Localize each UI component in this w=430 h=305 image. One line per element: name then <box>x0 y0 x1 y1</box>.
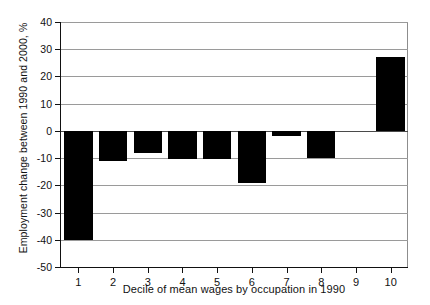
y-axis-title: Employment change between 1990 and 2000,… <box>17 13 29 263</box>
x-tick <box>321 267 322 273</box>
bar-group <box>373 22 408 267</box>
bar-group <box>165 22 200 267</box>
y-tick-label: -50 <box>37 261 52 273</box>
x-tick <box>391 267 392 273</box>
y-tick-label: 40 <box>40 16 52 28</box>
bar <box>64 131 92 240</box>
x-tick <box>287 267 288 273</box>
bar-group <box>61 22 96 267</box>
bar-group <box>200 22 235 267</box>
y-tick-label: -10 <box>37 152 52 164</box>
y-tick-label: 10 <box>40 98 52 110</box>
bar <box>168 131 196 160</box>
x-tick <box>148 267 149 273</box>
bar-group <box>339 22 374 267</box>
x-tick <box>113 267 114 273</box>
y-tick-label: 20 <box>40 70 52 82</box>
bar <box>307 131 335 158</box>
x-tick <box>217 267 218 273</box>
bar-group <box>96 22 131 267</box>
bar <box>272 131 300 136</box>
x-tick <box>356 267 357 273</box>
bar-group <box>235 22 270 267</box>
y-tick-label: 0 <box>46 125 52 137</box>
bar-series <box>61 22 408 267</box>
bar <box>238 131 266 183</box>
bar-group <box>130 22 165 267</box>
y-tick-label: -40 <box>37 234 52 246</box>
plot-area: 403020100-10-20-30-40-50 12345678910 <box>60 22 408 268</box>
bar <box>376 57 404 131</box>
bar <box>203 131 231 160</box>
bar-group <box>269 22 304 267</box>
chart-figure: Employment change between 1990 and 2000,… <box>0 0 430 305</box>
bar <box>134 131 162 153</box>
y-tick <box>55 267 61 268</box>
x-tick <box>78 267 79 273</box>
y-tick-label: -20 <box>37 179 52 191</box>
bar <box>99 131 127 161</box>
x-tick <box>182 267 183 273</box>
bar-group <box>304 22 339 267</box>
y-tick-label: 30 <box>40 43 52 55</box>
x-tick <box>252 267 253 273</box>
y-tick-label: -30 <box>37 207 52 219</box>
x-axis-title: Decile of mean wages by occupation in 19… <box>60 283 408 295</box>
